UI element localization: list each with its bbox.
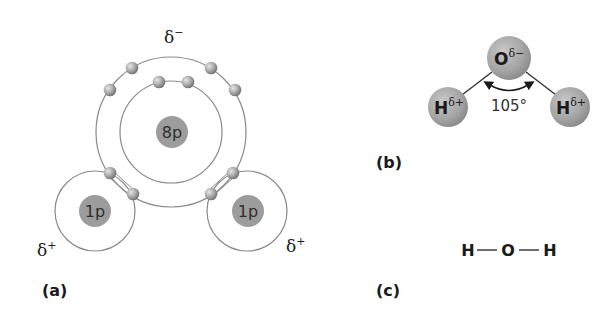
bond-angle-arrow — [490, 85, 528, 91]
electron — [126, 62, 139, 75]
panel-a-bohr-model: 8p 1p 1p δ− δ+ δ+ (a) — [37, 26, 305, 300]
partial-charge-positive-left: δ+ — [37, 239, 56, 260]
electron — [153, 76, 166, 89]
formula-hydrogen-left: H — [461, 241, 474, 260]
hydrogen-right-nucleus-label: 1p — [238, 202, 258, 221]
oxygen-nucleus: 8p — [156, 116, 188, 148]
panel-b-ball-model: Oδ− Hδ+ Hδ+ 105° (b) — [376, 36, 590, 172]
electron — [227, 167, 240, 180]
hydrogen-left-nucleus-label: 1p — [85, 202, 105, 221]
electron — [104, 167, 117, 180]
panel-label-b: (b) — [376, 153, 402, 172]
electron — [205, 62, 218, 75]
electron — [104, 84, 117, 97]
formula-hydrogen-right: H — [543, 241, 556, 260]
bond-angle-label: 105° — [491, 97, 527, 115]
hydrogen-left-nucleus: 1p — [79, 195, 111, 227]
water-molecule-figure: 8p 1p 1p δ− δ+ δ+ (a) — [0, 0, 613, 320]
electron — [205, 188, 218, 201]
panel-label-c: (c) — [376, 281, 400, 300]
electron — [182, 76, 195, 89]
panel-label-a: (a) — [42, 281, 67, 300]
partial-charge-negative: δ− — [164, 26, 183, 47]
formula-oxygen: O — [501, 241, 515, 260]
electron — [229, 84, 242, 97]
hydrogen-right-nucleus: 1p — [232, 195, 264, 227]
partial-charge-positive-right: δ+ — [286, 235, 305, 256]
electron — [127, 188, 140, 201]
panel-c-structural-formula: H O H (c) — [376, 241, 557, 301]
oxygen-nucleus-label: 8p — [162, 123, 182, 142]
